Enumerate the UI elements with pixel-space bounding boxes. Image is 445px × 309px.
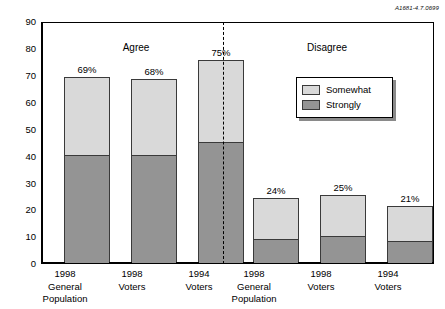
legend-label: Strongly — [326, 99, 361, 110]
y-tick-label: 30 — [6, 179, 36, 189]
bar-segment-somewhat — [321, 196, 365, 236]
x-tick-line: Voters — [350, 281, 426, 294]
x-tick-label-disagree-1998-voters: 1998 Voters — [283, 268, 359, 293]
legend-label: Somewhat — [326, 84, 371, 95]
x-tick-line: Population — [27, 293, 103, 306]
y-tick-label: 90 — [6, 17, 36, 27]
y-tick-label: 70 — [6, 71, 36, 81]
x-tick-line: 1998 — [94, 268, 170, 281]
y-tick-label: 40 — [6, 152, 36, 162]
legend-item-somewhat: Somewhat — [302, 82, 387, 97]
bar-value-label: 75% — [191, 47, 251, 58]
legend-item-strongly: Strongly — [302, 97, 387, 112]
bar-segment-strongly — [132, 155, 176, 263]
x-tick-line: Voters — [283, 281, 359, 294]
bar-value-label: 69% — [57, 64, 117, 75]
x-tick-line: 1998 — [216, 268, 292, 281]
x-tick-label-disagree-1998-general-population: 1998 General Population — [216, 268, 292, 306]
y-tick-label: 60 — [6, 98, 36, 108]
bar-segment-strongly — [254, 239, 298, 263]
legend-swatch-icon — [302, 85, 320, 95]
bar-agree-1998-voters: 68% — [131, 79, 177, 262]
y-tick-label: 80 — [6, 44, 36, 54]
x-tick-label-disagree-1994-voters: 1994 Voters — [350, 268, 426, 293]
bar-segment-strongly — [321, 236, 365, 263]
bar-value-label: 68% — [124, 66, 184, 77]
group-divider — [223, 22, 224, 264]
chart-legend: Somewhat Strongly — [296, 77, 393, 118]
x-tick-label-agree-1998-general-population: 1998 General Population — [27, 268, 103, 306]
x-tick-line: 1998 — [283, 268, 359, 281]
legend-swatch-icon — [302, 100, 320, 110]
y-tick-label: 50 — [6, 125, 36, 135]
chart-figure: A1681-4.7.0699 Percentage 90 80 70 60 50… — [0, 0, 445, 309]
group-title-disagree: Disagree — [282, 42, 372, 53]
x-tick-line: Population — [216, 293, 292, 306]
bar-value-label: 24% — [246, 185, 306, 196]
bar-segment-strongly — [65, 155, 109, 263]
bar-disagree-1998-general-population: 24% — [253, 198, 299, 263]
bar-value-label: 21% — [380, 193, 440, 204]
bar-agree-1994-voters: 75% — [198, 60, 244, 262]
bar-segment-strongly — [388, 241, 432, 263]
x-tick-line: General — [216, 281, 292, 294]
x-tick-line: General — [27, 281, 103, 294]
x-tick-line: 1998 — [27, 268, 103, 281]
bar-segment-strongly — [199, 142, 243, 263]
x-tick-line: 1994 — [350, 268, 426, 281]
bar-disagree-1994-voters: 21% — [387, 206, 433, 263]
plot-area: 69% 68% 75% 24% 25% — [41, 22, 434, 264]
y-tick-label: 20 — [6, 205, 36, 215]
y-tick-label: 10 — [6, 232, 36, 242]
bar-segment-somewhat — [65, 78, 109, 156]
group-title-agree: Agree — [96, 42, 176, 53]
bar-segment-somewhat — [132, 80, 176, 155]
bar-disagree-1998-voters: 25% — [320, 195, 366, 262]
x-tick-label-agree-1998-voters: 1998 Voters — [94, 268, 170, 293]
bar-segment-somewhat — [199, 61, 243, 142]
x-tick-line: Voters — [94, 281, 170, 294]
bar-segment-somewhat — [254, 199, 298, 239]
bar-segment-somewhat — [388, 207, 432, 242]
bar-value-label: 25% — [313, 182, 373, 193]
bar-agree-1998-general-population: 69% — [64, 77, 110, 263]
